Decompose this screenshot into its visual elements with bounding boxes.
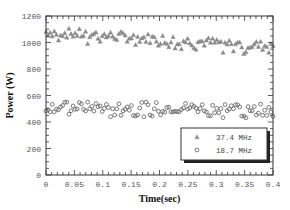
- data-point-18-7mhz: [127, 108, 131, 112]
- x-tick-label: 0.4: [266, 180, 281, 189]
- data-point-37-4mhz: [85, 41, 89, 45]
- data-point-37-4mhz: [135, 34, 139, 38]
- data-point-18-7mhz: [140, 101, 144, 105]
- data-point-18-7mhz: [217, 111, 221, 115]
- data-point-37-4mhz: [231, 49, 235, 53]
- x-tick-label: 0.2: [152, 180, 167, 189]
- data-point-18-7mhz: [200, 103, 204, 107]
- legend: 37.4 MHz18.7 MHz: [181, 128, 270, 163]
- data-point-18-7mhz: [117, 102, 121, 106]
- data-point-37-4mhz: [160, 34, 164, 38]
- data-point-37-4mhz: [206, 36, 210, 40]
- data-point-37-4mhz: [258, 39, 262, 43]
- y-tick-label: 1200: [22, 12, 41, 21]
- legend-box: [181, 128, 267, 160]
- data-point-37-4mhz: [208, 40, 212, 44]
- data-point-18-7mhz: [259, 102, 263, 106]
- data-point-37-4mhz: [52, 29, 56, 33]
- y-tick-label: 200: [27, 145, 42, 154]
- data-point-37-4mhz: [202, 43, 206, 47]
- data-point-18-7mhz: [263, 108, 267, 112]
- data-point-37-4mhz: [267, 50, 271, 54]
- x-tick-label: 0.25: [178, 180, 197, 189]
- x-tick-label: 0.05: [65, 180, 84, 189]
- data-point-37-4mhz: [77, 27, 81, 31]
- data-point-37-4mhz: [227, 38, 231, 42]
- data-point-18-7mhz: [223, 103, 227, 107]
- y-tick-label: 0: [36, 171, 41, 180]
- data-point-18-7mhz: [102, 106, 106, 110]
- data-point-18-7mhz: [119, 113, 123, 117]
- data-point-18-7mhz: [113, 113, 117, 117]
- data-point-37-4mhz: [83, 29, 87, 33]
- data-point-37-4mhz: [254, 40, 258, 44]
- data-point-18-7mhz: [211, 103, 215, 107]
- data-point-18-7mhz: [86, 100, 90, 104]
- data-point-18-7mhz: [261, 113, 265, 117]
- data-point-37-4mhz: [67, 26, 71, 30]
- x-tick-label: 0.1: [96, 180, 111, 189]
- data-point-18-7mhz: [107, 106, 111, 110]
- data-point-37-4mhz: [108, 30, 112, 34]
- data-point-37-4mhz: [210, 36, 214, 40]
- x-tick-label: 0.35: [235, 180, 254, 189]
- data-point-18-7mhz: [142, 115, 146, 119]
- x-tick-label: 0: [44, 180, 49, 189]
- data-point-18-7mhz: [157, 109, 161, 113]
- data-point-37-4mhz: [244, 50, 248, 54]
- data-point-18-7mhz: [213, 111, 217, 115]
- data-point-18-7mhz: [109, 115, 113, 119]
- data-point-37-4mhz: [144, 40, 148, 44]
- data-point-18-7mhz: [129, 104, 133, 108]
- data-point-37-4mhz: [185, 36, 189, 40]
- power-vs-time-chart: 00.050.10.150.20.250.30.350.4 0200400600…: [0, 0, 290, 210]
- data-point-37-4mhz: [169, 40, 173, 44]
- data-point-18-7mhz: [246, 105, 250, 109]
- x-tick-label: 0.3: [209, 180, 224, 189]
- data-markers: [44, 26, 275, 120]
- data-point-37-4mhz: [154, 39, 158, 43]
- data-point-37-4mhz: [240, 45, 244, 49]
- data-point-18-7mhz: [232, 107, 236, 111]
- y-axis-title: Power (W): [4, 72, 16, 118]
- data-point-18-7mhz: [152, 107, 156, 111]
- data-point-18-7mhz: [115, 107, 119, 111]
- x-axis-title: Time(sec): [139, 193, 180, 205]
- data-point-37-4mhz: [133, 43, 137, 47]
- data-point-37-4mhz: [173, 46, 177, 50]
- data-point-37-4mhz: [171, 35, 175, 39]
- legend-label: 18.7 MHz: [216, 147, 252, 155]
- data-point-18-7mhz: [69, 109, 73, 113]
- data-point-18-7mhz: [252, 105, 256, 109]
- data-point-18-7mhz: [92, 109, 96, 113]
- data-point-37-4mhz: [48, 30, 52, 34]
- y-tick-label: 600: [27, 92, 42, 101]
- data-point-18-7mhz: [198, 107, 202, 111]
- data-point-37-4mhz: [131, 33, 135, 37]
- data-point-18-7mhz: [154, 101, 158, 105]
- data-point-18-7mhz: [138, 106, 142, 110]
- x-axis-ticks: 00.050.10.150.20.250.30.350.4: [44, 16, 281, 189]
- data-point-37-4mhz: [260, 47, 264, 51]
- data-point-37-4mhz: [158, 41, 162, 45]
- y-tick-label: 1000: [22, 39, 41, 48]
- data-point-37-4mhz: [96, 36, 100, 40]
- data-point-18-7mhz: [111, 107, 115, 111]
- data-point-37-4mhz: [179, 47, 183, 51]
- y-tick-label: 800: [27, 65, 42, 74]
- data-point-18-7mhz: [184, 102, 188, 106]
- data-point-37-4mhz: [63, 31, 67, 35]
- data-point-37-4mhz: [65, 35, 69, 39]
- x-tick-label: 0.15: [122, 180, 141, 189]
- data-point-37-4mhz: [50, 34, 54, 38]
- data-point-18-7mhz: [221, 116, 225, 120]
- data-point-18-7mhz: [50, 102, 54, 106]
- data-point-18-7mhz: [265, 114, 269, 118]
- data-point-18-7mhz: [146, 103, 150, 107]
- data-point-37-4mhz: [146, 32, 150, 36]
- legend-label: 37.4 MHz: [216, 134, 252, 142]
- data-point-37-4mhz: [56, 38, 60, 42]
- y-tick-label: 400: [27, 118, 42, 127]
- data-point-37-4mhz: [256, 45, 260, 49]
- data-point-18-7mhz: [215, 106, 219, 110]
